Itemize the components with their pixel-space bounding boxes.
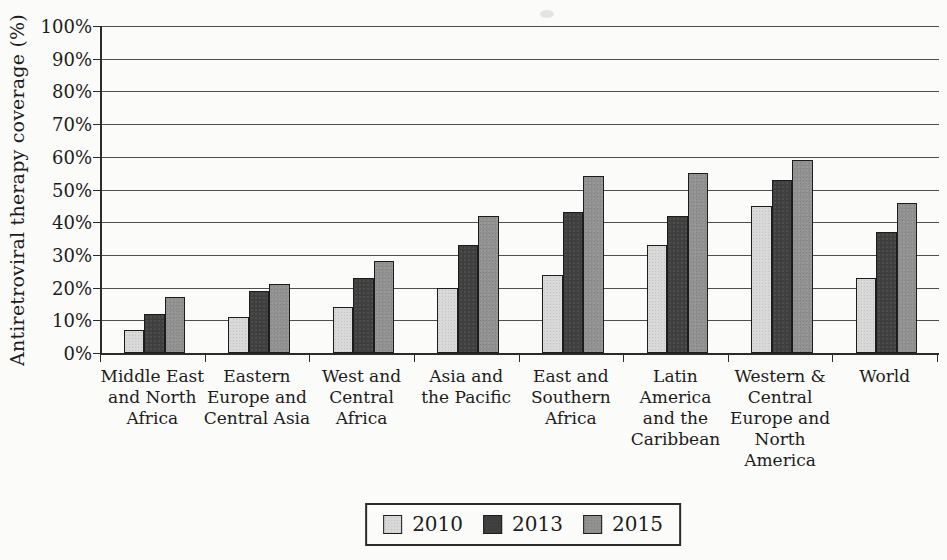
y-tick-mark-20 (93, 288, 100, 289)
legend-swatch-2010 (383, 515, 402, 534)
gridline-30 (102, 255, 939, 256)
x-category-label-line: and North (94, 387, 211, 408)
bar-2015-group1 (165, 297, 186, 353)
bar-2013-group2 (249, 291, 270, 353)
x-category-label-7: Western &CentralEurope andNorthAmerica (722, 366, 839, 471)
x-category-label-line: Caribbean (617, 429, 734, 450)
y-tick-mark-70 (93, 124, 100, 125)
y-tick-mark-30 (93, 255, 100, 256)
x-category-label-line: America (722, 450, 839, 471)
y-tick-label-90: 90% (52, 48, 92, 69)
x-category-label-2: EasternEurope andCentral Asia (199, 366, 316, 429)
x-tick-mark-3 (414, 355, 415, 362)
x-category-label-line: Asia and (408, 366, 525, 387)
x-category-label-line: East and (513, 366, 630, 387)
x-category-label-5: East andSouthernAfrica (513, 366, 630, 429)
y-tick-label-60: 60% (52, 146, 92, 167)
plot-area (100, 26, 939, 355)
gridline-70 (102, 124, 939, 125)
y-tick-label-70: 70% (52, 114, 92, 135)
x-category-label-line: Southern (513, 387, 630, 408)
bar-2015-group2 (269, 284, 290, 353)
legend-label-2010: 2010 (412, 512, 463, 536)
y-tick-label-0: 0% (63, 343, 92, 364)
y-tick-label-80: 80% (52, 81, 92, 102)
legend-swatch-2015 (583, 515, 602, 534)
y-tick-label-30: 30% (52, 244, 92, 265)
gridline-50 (102, 190, 939, 191)
x-tick-mark-0 (100, 355, 101, 362)
bar-2013-group5 (563, 212, 584, 353)
x-category-label-line: and the (617, 408, 734, 429)
x-category-label-line: World (826, 366, 943, 387)
legend-item-2013: 2013 (483, 512, 563, 536)
x-category-label-line: the Pacific (408, 387, 525, 408)
bar-2015-group8 (897, 203, 918, 353)
x-category-label-line: North (722, 429, 839, 450)
legend-item-2015: 2015 (583, 512, 663, 536)
x-category-label-8: World (826, 366, 943, 387)
y-tick-mark-60 (93, 157, 100, 158)
x-category-label-line: Middle East (94, 366, 211, 387)
x-tick-mark-8 (937, 355, 938, 362)
scan-smudge (540, 10, 554, 18)
y-tick-mark-80 (93, 91, 100, 92)
bar-2010-group8 (856, 278, 877, 353)
y-tick-mark-40 (93, 222, 100, 223)
x-category-label-4: Asia andthe Pacific (408, 366, 525, 408)
gridline-90 (102, 59, 939, 60)
bar-2015-group7 (792, 160, 813, 353)
x-category-label-line: Europe and (199, 387, 316, 408)
x-category-label-line: Europe and (722, 408, 839, 429)
y-tick-mark-100 (93, 26, 100, 27)
y-tick-label-10: 10% (52, 310, 92, 331)
bar-chart-figure: Antiretroviral therapy coverage (%) 0%10… (0, 0, 947, 560)
bar-2013-group6 (667, 216, 688, 353)
x-tick-mark-1 (205, 355, 206, 362)
x-tick-mark-2 (309, 355, 310, 362)
y-tick-mark-0 (93, 353, 100, 354)
x-category-label-line: America (617, 387, 734, 408)
x-category-label-line: Western & (722, 366, 839, 387)
y-tick-mark-50 (93, 190, 100, 191)
legend-item-2010: 2010 (383, 512, 463, 536)
x-category-label-line: Africa (94, 408, 211, 429)
bar-2015-group5 (583, 176, 604, 353)
y-tick-label-40: 40% (52, 212, 92, 233)
x-category-label-line: Africa (303, 408, 420, 429)
y-tick-label-100: 100% (41, 16, 92, 37)
x-category-label-line: West and (303, 366, 420, 387)
x-tick-mark-7 (832, 355, 833, 362)
bar-2010-group4 (437, 288, 458, 353)
y-axis-title: Antiretroviral therapy coverage (%) (6, 14, 28, 366)
bar-2013-group1 (144, 314, 165, 353)
bar-2010-group2 (228, 317, 249, 353)
bar-2010-group5 (542, 275, 563, 353)
legend-swatch-2013 (483, 515, 502, 534)
x-category-label-line: Central (722, 387, 839, 408)
bar-2013-group4 (458, 245, 479, 353)
bar-2013-group7 (772, 180, 793, 353)
bar-2010-group3 (333, 307, 354, 353)
x-category-label-1: Middle Eastand NorthAfrica (94, 366, 211, 429)
x-category-label-3: West andCentralAfrica (303, 366, 420, 429)
y-tick-mark-10 (93, 320, 100, 321)
gridline-20 (102, 288, 939, 289)
x-category-label-line: Central (303, 387, 420, 408)
legend-label-2013: 2013 (512, 512, 563, 536)
y-tick-mark-90 (93, 59, 100, 60)
x-tick-mark-4 (519, 355, 520, 362)
bar-2010-group6 (647, 245, 668, 353)
x-tick-mark-6 (728, 355, 729, 362)
gridline-40 (102, 222, 939, 223)
x-tick-mark-5 (623, 355, 624, 362)
bar-2015-group6 (688, 173, 709, 353)
gridline-100 (102, 26, 939, 27)
bar-2013-group8 (876, 232, 897, 353)
bar-2010-group1 (124, 330, 145, 353)
x-category-label-line: Central Asia (199, 408, 316, 429)
bar-2015-group3 (374, 261, 395, 353)
x-category-label-6: LatinAmericaand theCaribbean (617, 366, 734, 450)
y-tick-label-50: 50% (52, 179, 92, 200)
x-category-label-line: Latin (617, 366, 734, 387)
